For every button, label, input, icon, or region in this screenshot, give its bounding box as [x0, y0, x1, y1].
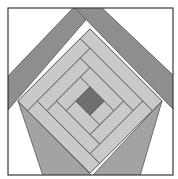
quilt-block-diagram: [0, 0, 178, 179]
